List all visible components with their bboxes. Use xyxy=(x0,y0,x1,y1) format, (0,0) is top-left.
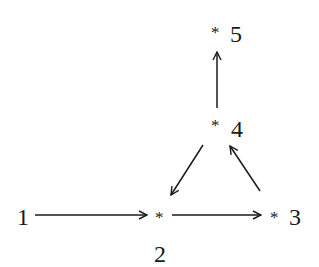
edge-3-to-4-arrow xyxy=(230,146,260,191)
edge-4-to-2-arrow xyxy=(171,145,203,195)
node-1: 1 xyxy=(17,204,29,230)
node-1-label: 1 xyxy=(17,204,29,230)
node-5-label: 5 xyxy=(230,21,242,47)
node-3: * 3 xyxy=(270,204,301,230)
node-5: * 5 xyxy=(211,21,242,47)
node-4-label: 4 xyxy=(231,116,243,142)
node-2-marker: * xyxy=(155,208,164,227)
node-5-marker: * xyxy=(211,23,220,42)
node-4-marker: * xyxy=(211,116,220,135)
graph-diagram: * 5 * 4 1 * 2 * 3 xyxy=(0,0,319,267)
node-2: * 2 xyxy=(154,208,166,267)
node-3-marker: * xyxy=(270,208,279,227)
node-2-label: 2 xyxy=(154,241,166,267)
node-3-label: 3 xyxy=(289,204,301,230)
node-4: * 4 xyxy=(211,116,243,142)
